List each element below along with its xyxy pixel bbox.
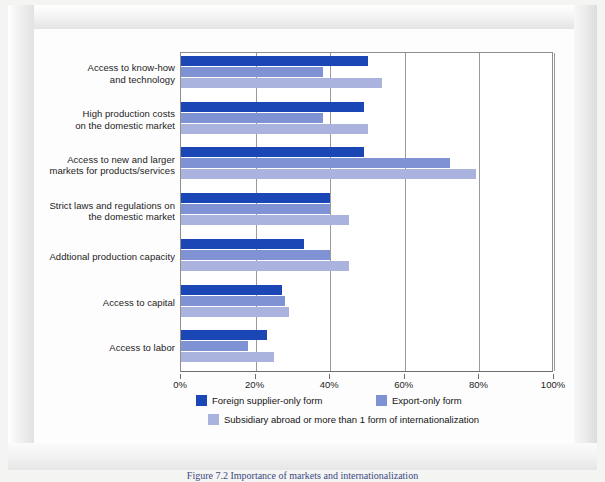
- legend-swatch-foreign-supplier-only: [196, 395, 207, 406]
- legend-label-1: Export-only form: [392, 395, 462, 406]
- category-label: High production costson the domestic mar…: [20, 108, 175, 131]
- bar: [181, 330, 267, 340]
- bar: [181, 296, 285, 306]
- x-axis-tick-label: 20%: [245, 379, 264, 390]
- category-axis-labels: Access to know-howand technologyHigh pro…: [20, 52, 175, 372]
- category-label-line: the domestic market: [20, 211, 175, 223]
- bar: [181, 261, 349, 271]
- legend-swatch-subsidiary-abroad: [208, 414, 219, 425]
- x-axis-tick-label: 0%: [173, 379, 187, 390]
- category-label-line: markets for products/services: [20, 165, 175, 177]
- gridline-100pct: [554, 53, 555, 371]
- bar: [181, 341, 248, 351]
- bar: [181, 169, 476, 179]
- bar: [181, 352, 274, 362]
- chart-legend: Foreign supplier-only form Export-only f…: [180, 395, 553, 439]
- bar-group: [181, 144, 552, 190]
- plot-area: [180, 52, 553, 372]
- x-axis-tick-label: 100%: [541, 379, 565, 390]
- x-axis-tick-label: 40%: [320, 379, 339, 390]
- bar-group: [181, 53, 552, 99]
- category-label-line: on the domestic market: [20, 120, 175, 132]
- category-label-line: Access to labor: [20, 342, 175, 354]
- bar-group: [181, 327, 552, 373]
- x-axis-tick-label: 60%: [394, 379, 413, 390]
- x-axis: 0%20%40%60%80%100%: [180, 374, 553, 390]
- bar: [181, 124, 368, 134]
- legend-item-2: Subsidiary abroad or more than 1 form of…: [208, 414, 479, 425]
- bar-group: [181, 282, 552, 328]
- category-label: Access to new and largermarkets for prod…: [20, 154, 175, 177]
- bar: [181, 147, 364, 157]
- category-label-line: Access to new and larger: [20, 154, 175, 166]
- bar: [181, 67, 323, 77]
- legend-label-0: Foreign supplier-only form: [212, 395, 322, 406]
- bar: [181, 285, 282, 295]
- bar: [181, 78, 382, 88]
- bar: [181, 204, 330, 214]
- category-label-line: Access to capital: [20, 297, 175, 309]
- legend-label-2: Subsidiary abroad or more than 1 form of…: [224, 414, 479, 425]
- x-axis-tick-label: 80%: [469, 379, 488, 390]
- category-label-line: High production costs: [20, 108, 175, 120]
- legend-item-1: Export-only form: [376, 395, 462, 406]
- bar-group: [181, 190, 552, 236]
- category-label-line: and technology: [20, 74, 175, 86]
- bar: [181, 102, 364, 112]
- category-label: Access to labor: [20, 342, 175, 354]
- category-label-line: Addtional production capacity: [20, 251, 175, 263]
- bar: [181, 250, 330, 260]
- bar: [181, 307, 289, 317]
- category-label: Access to capital: [20, 297, 175, 309]
- legend-swatch-export-only: [376, 395, 387, 406]
- bar-chart: Access to know-howand technologyHigh pro…: [0, 0, 605, 482]
- legend-item-0: Foreign supplier-only form: [196, 395, 322, 406]
- category-label: Access to know-howand technology: [20, 62, 175, 85]
- category-label: Strict laws and regulations onthe domest…: [20, 200, 175, 223]
- bar: [181, 215, 349, 225]
- bar: [181, 193, 330, 203]
- figure-caption: Figure 7.2 Importance of markets and int…: [0, 470, 605, 481]
- category-label-line: Strict laws and regulations on: [20, 200, 175, 212]
- bar: [181, 113, 323, 123]
- bar: [181, 56, 368, 66]
- category-label: Addtional production capacity: [20, 251, 175, 263]
- bar: [181, 158, 450, 168]
- category-label-line: Access to know-how: [20, 62, 175, 74]
- bar: [181, 239, 304, 249]
- bar-group: [181, 236, 552, 282]
- bar-group: [181, 99, 552, 145]
